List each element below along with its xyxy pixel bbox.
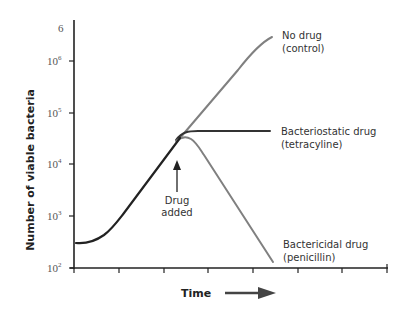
- series-labels: No drug (control) Bacteriostatic drug (t…: [281, 30, 376, 263]
- label-no-drug-line1: No drug: [282, 30, 322, 41]
- y-tick-labels: 6 106 105 104 103 102: [47, 22, 64, 274]
- y-tick-label-1e4: 104: [47, 157, 62, 170]
- label-bacteriostatic-line1: Bacteriostatic drug: [281, 126, 376, 137]
- label-bactericidal-line1: Bactericidal drug: [283, 239, 368, 250]
- x-axis-title-group: Time: [181, 287, 276, 300]
- label-bactericidal-line2: (penicillin): [283, 252, 335, 263]
- time-arrow-icon: [258, 287, 276, 299]
- curve-bactericidal: [176, 137, 273, 262]
- label-bacteriostatic-line2: (tetracyline): [281, 139, 343, 150]
- drug-added-annotation: Drug added: [161, 160, 192, 218]
- drug-added-arrow-icon: [173, 160, 181, 170]
- y-tick-label-1e3: 103: [47, 209, 62, 222]
- growth-curve-chart: 6 106 105 104 103 102 Number of viable b…: [0, 0, 406, 314]
- curve-common-growth: [76, 138, 180, 243]
- y-tick-label-top: 6: [58, 22, 64, 34]
- y-tick-label-1e2: 102: [47, 261, 62, 274]
- x-axis-title: Time: [181, 287, 211, 300]
- curves: [76, 37, 273, 262]
- curve-no-drug: [180, 37, 272, 138]
- y-tick-label-1e6: 106: [47, 54, 62, 67]
- label-no-drug-line2: (control): [282, 43, 325, 54]
- drug-added-label-line2: added: [161, 207, 192, 218]
- y-tick-label-1e5: 105: [47, 106, 62, 119]
- y-axis-title: Number of viable bacteria: [24, 89, 37, 251]
- drug-added-label-line1: Drug: [165, 195, 190, 206]
